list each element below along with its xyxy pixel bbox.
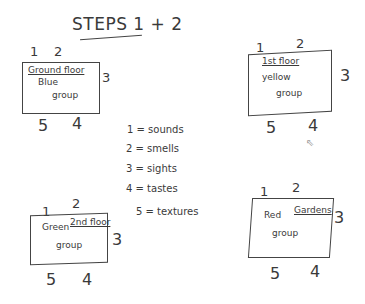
edge-label-5: 5: [266, 118, 276, 137]
title-underline: [80, 35, 142, 40]
legend-item-textures: 5 = textures: [136, 206, 198, 217]
group-label-line1: Blue: [38, 77, 58, 87]
group-label-line2: group: [276, 88, 302, 98]
group-label-line2: group: [52, 90, 78, 100]
legend-item-sounds: 1 = sounds: [127, 124, 184, 135]
edge-label-1: 1: [30, 44, 38, 59]
group-label-line2: group: [272, 228, 298, 238]
edge-label-4: 4: [310, 262, 320, 281]
floor-label: Gardens: [294, 205, 332, 215]
edge-label-2: 2: [296, 36, 304, 51]
edge-label-3: 3: [102, 70, 110, 85]
edge-label-5: 5: [38, 116, 48, 135]
floor-label: 1st floor: [262, 56, 299, 66]
edge-label-4: 4: [308, 116, 318, 135]
group-label-line1: yellow: [262, 72, 291, 82]
edge-label-2: 2: [292, 180, 300, 195]
legend-item-sights: 3 = sights: [126, 163, 177, 174]
edge-label-2: 2: [54, 44, 62, 59]
edge-label-1: 1: [260, 184, 268, 199]
legend-item-tastes: 4 = tastes: [126, 183, 178, 194]
group-label-line1: Green: [42, 222, 69, 232]
edge-label-5: 5: [270, 264, 280, 283]
edge-label-2: 2: [72, 196, 80, 211]
edge-label-4: 4: [82, 270, 92, 289]
legend-item-smells: 2 = smells: [126, 143, 179, 154]
floor-label: Ground floor: [28, 65, 84, 75]
edge-label-4: 4: [72, 114, 82, 133]
mouse-cursor-icon: ⇖: [306, 137, 314, 148]
diagram-title: STEPS 1 + 2: [72, 14, 183, 34]
group-label-line1: Red: [264, 210, 281, 220]
group-label-line2: group: [56, 240, 82, 250]
floor-label: 2nd floor: [70, 217, 110, 227]
edge-label-3: 3: [334, 208, 344, 227]
edge-label-3: 3: [112, 230, 122, 249]
edge-label-3: 3: [340, 66, 350, 85]
edge-label-5: 5: [46, 270, 56, 289]
